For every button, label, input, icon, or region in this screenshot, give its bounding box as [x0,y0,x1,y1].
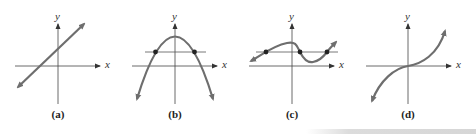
x-axis-label-a: x [105,59,110,70]
x-axis-label-d: x [456,59,461,70]
caption-a: (a) [52,109,65,120]
caption-c: (c) [286,109,298,120]
linear-curve [18,24,84,87]
intersection-point [298,50,303,55]
graph-a [15,24,100,104]
x-axis-label-b: x [222,59,227,70]
graph-b [132,24,217,104]
intersection-point [153,50,158,55]
intersection-point [325,50,330,55]
y-axis-label-a: y [55,11,60,22]
intersection-point [264,50,269,55]
caption-d: (d) [401,109,414,120]
intersection-point [192,50,197,55]
x-axis-label-c: x [339,59,344,70]
graph-d [366,24,451,104]
y-axis-label-d: y [405,11,410,22]
y-axis-label-b: y [172,11,177,22]
y-axis-label-c: y [289,11,294,22]
bottom-shadow-rule [306,129,476,134]
caption-b: (b) [168,109,181,120]
graph-c [249,24,338,104]
